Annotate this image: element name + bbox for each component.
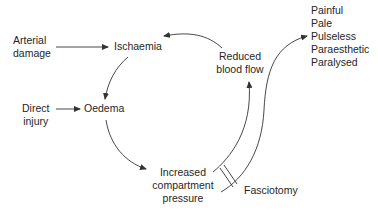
symptom-list: Painful Pale Pulseless Paraesthetic Para… bbox=[311, 4, 369, 69]
arrow-bloodflow-to-ischaemia bbox=[164, 34, 222, 48]
node-increased-pressure: Increased compartment pressure bbox=[148, 166, 218, 205]
node-bloodflow-line1: Reduced bbox=[210, 50, 270, 63]
node-ischaemia: Ischaemia bbox=[114, 40, 162, 53]
node-direct-injury: Direct injury bbox=[22, 102, 49, 128]
node-pressure-line3: pressure bbox=[148, 192, 218, 205]
node-direct-injury-line2: injury bbox=[22, 115, 49, 128]
symptom-painful: Painful bbox=[311, 4, 369, 17]
arrow-oedema-to-pressure bbox=[106, 120, 146, 169]
arrow-ischaemia-to-oedema bbox=[105, 57, 128, 99]
diagram-canvas: Arterial damage Ischaemia Direct injury … bbox=[0, 0, 378, 214]
node-pressure-line2: compartment bbox=[148, 179, 218, 192]
fasciotomy-slash-2 bbox=[224, 165, 237, 184]
symptom-pale: Pale bbox=[311, 17, 369, 30]
symptom-paralysed: Paralysed bbox=[311, 56, 369, 69]
symptom-paraesthetic: Paraesthetic bbox=[311, 43, 369, 56]
node-oedema: Oedema bbox=[84, 102, 124, 115]
node-pressure-line1: Increased bbox=[148, 166, 218, 179]
node-reduced-blood-flow: Reduced blood flow bbox=[210, 50, 270, 76]
node-arterial-damage-line1: Arterial bbox=[13, 34, 55, 47]
node-arterial-damage-line2: damage bbox=[13, 47, 55, 60]
node-fasciotomy: Fasciotomy bbox=[244, 184, 298, 197]
arrow-pressure-to-bloodflow bbox=[213, 82, 249, 172]
fasciotomy-slash-1 bbox=[220, 168, 233, 187]
node-direct-injury-line1: Direct bbox=[22, 102, 49, 115]
node-bloodflow-line2: blood flow bbox=[210, 63, 270, 76]
symptom-pulseless: Pulseless bbox=[311, 30, 369, 43]
node-arterial-damage: Arterial damage bbox=[13, 34, 55, 60]
